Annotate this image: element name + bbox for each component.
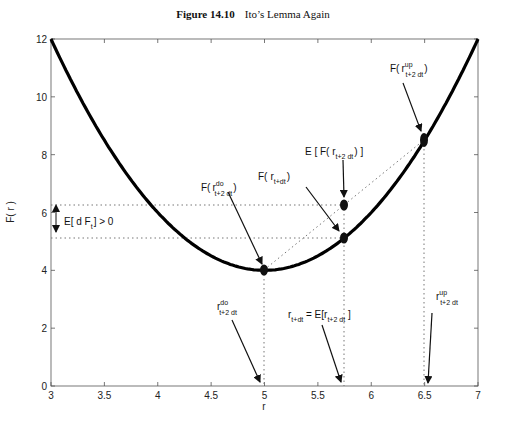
x-tick-label: 3 <box>48 390 54 401</box>
x-tick-label: 4 <box>155 390 161 401</box>
label-f-up: F(rupt+2 dt) <box>390 61 428 78</box>
x-tick-label: 6 <box>368 390 374 401</box>
label-f-do: F(rdot+2 dt) <box>201 180 237 197</box>
x-tick-label: 4.5 <box>204 390 218 401</box>
y-tick-label: 12 <box>36 34 48 45</box>
point-tdt <box>340 233 348 244</box>
point-up <box>420 133 428 147</box>
x-tick-label: 5 <box>262 390 268 401</box>
annotation-arrows <box>56 83 432 383</box>
y-tick-label: 10 <box>36 92 48 103</box>
label-r-up: rupt+2 dt <box>436 289 458 306</box>
label-f-tdt: F(rt+dt) <box>258 171 290 185</box>
guide-lines <box>51 140 424 386</box>
point-expected <box>340 200 348 211</box>
chart: 33.544.555.566.57 024681012 r F( r ) F(r… <box>0 0 506 430</box>
x-tick-label: 5.5 <box>311 390 325 401</box>
y-tick-label: 4 <box>41 265 47 276</box>
y-tick-label: 6 <box>41 208 47 219</box>
y-tick-label: 2 <box>41 323 47 334</box>
y-tick-label: 8 <box>41 150 47 161</box>
x-tick-labels: 33.544.555.566.57 <box>48 390 481 401</box>
x-tick-label: 7 <box>475 390 481 401</box>
y-axis-label: F( r ) <box>5 201 16 223</box>
y-tick-label: 0 <box>41 381 47 392</box>
label-edf: E[ d Ft] > 0 <box>64 216 114 230</box>
y-tick-labels: 024681012 <box>36 34 48 392</box>
x-axis-label: r <box>262 401 266 412</box>
label-r-tdt-eq: rt+dt = E[rt+2 dt ] <box>288 309 351 323</box>
x-tick-label: 6.5 <box>418 390 432 401</box>
x-tick-label: 3.5 <box>97 390 111 401</box>
label-expected-f: E [ F( rt+2 dt) ] <box>305 146 363 160</box>
label-r-do: rdot+2 dt <box>217 299 237 316</box>
point-do <box>260 265 268 276</box>
